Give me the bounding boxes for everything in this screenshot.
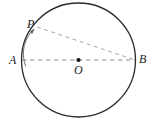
point-label-o: O [74, 64, 83, 76]
arc-arrow-path [23, 30, 33, 67]
point-label-p: P [27, 18, 34, 30]
chord-segment-pb [37, 27, 135, 60]
geometry-figure: P A B O [0, 0, 152, 123]
center-point-dot [76, 58, 80, 62]
point-label-b: B [139, 53, 146, 65]
geometry-canvas [0, 0, 152, 123]
point-label-a: A [9, 54, 16, 66]
